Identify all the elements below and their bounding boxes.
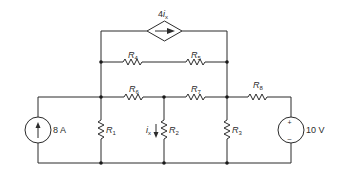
r2-label: R2 <box>169 125 180 136</box>
r1-label: R1 <box>106 125 117 136</box>
arrow-right-icon <box>167 28 175 34</box>
voltage-source-label: 10 V <box>306 125 325 135</box>
r7-label: R7 <box>191 84 202 95</box>
r4-label: R4 <box>128 50 139 61</box>
plus-sign: + <box>288 119 292 126</box>
resistor-r3-icon <box>224 120 230 139</box>
r2-branch <box>154 97 168 163</box>
r6-label: R6 <box>129 84 140 95</box>
dependent-source-label: 4ix <box>158 9 168 20</box>
r5-label: R5 <box>191 50 202 61</box>
circuit-diagram: 4ix R4 R5 R6 R7 R8 R1 R2 R3 ix 8 A 10 V … <box>0 0 338 185</box>
arrow-up-icon <box>36 122 41 128</box>
r8-label: R8 <box>253 80 264 91</box>
current-source-label: 8 A <box>53 125 66 135</box>
resistor-r1-icon <box>98 120 104 139</box>
r3-label: R3 <box>232 125 243 136</box>
dependent-source-branch <box>101 21 227 62</box>
arrow-down-icon <box>154 132 159 138</box>
minus-sign: – <box>288 135 292 142</box>
r4-r5-branch <box>101 59 227 65</box>
resistor-r7-icon <box>186 94 205 100</box>
r3-branch <box>224 97 230 163</box>
current-source <box>25 117 51 163</box>
resistor-r2-icon <box>161 120 167 139</box>
resistor-r6-icon <box>124 94 143 100</box>
ix-label: ix <box>146 125 151 136</box>
r1-branch <box>98 97 104 163</box>
resistor-r8-icon <box>248 94 267 100</box>
